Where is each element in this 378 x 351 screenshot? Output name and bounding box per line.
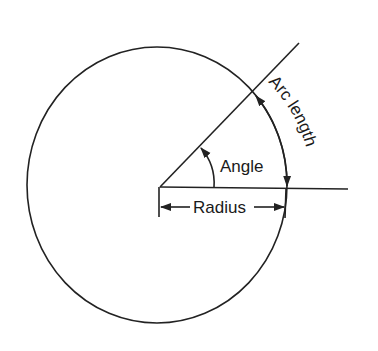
arc-length-label-wrap: Arc length bbox=[265, 72, 321, 149]
arc-length-label: Arc length bbox=[265, 72, 321, 149]
circle bbox=[27, 47, 287, 323]
horizontal-ray bbox=[160, 187, 348, 189]
radius-label: Radius bbox=[193, 198, 246, 217]
angle-label: Angle bbox=[220, 157, 263, 176]
angle-arc bbox=[201, 148, 214, 187]
radius-tick-right bbox=[285, 189, 286, 218]
radian-diagram: Angle Radius Arc length bbox=[0, 0, 378, 351]
